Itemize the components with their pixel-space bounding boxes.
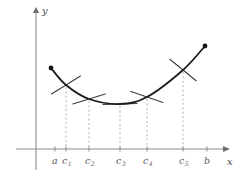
tick-label-sub-c4: 4	[148, 160, 153, 167]
tangent-line-group	[52, 59, 197, 104]
axes-group	[16, 7, 230, 170]
figure-canvas: ac1c2c3c4c5b x y	[0, 0, 241, 176]
tick-label-c5: c5	[179, 155, 189, 167]
endpoint-dot-a	[49, 66, 54, 71]
y-axis-label: y	[41, 5, 48, 16]
tick-label-c2: c2	[85, 155, 95, 167]
tick-label-sub-c1: 1	[68, 160, 72, 167]
tick-label-b: b	[204, 155, 210, 166]
tick-label-c4: c4	[143, 155, 153, 167]
tick-label-base-b: b	[204, 155, 210, 166]
x-axis-arrow-icon	[223, 146, 230, 152]
function-curve	[51, 46, 205, 104]
tick-label-c1: c1	[62, 155, 72, 167]
tick-label-sub-c3: 3	[122, 160, 126, 167]
x-axis-label: x	[227, 156, 233, 167]
tick-label-c3: c3	[116, 155, 126, 167]
tick-label-sub-c5: 5	[185, 160, 189, 167]
convex-function-tangents-plot: ac1c2c3c4c5b x y	[0, 0, 241, 176]
tick-label-sub-c2: 2	[90, 160, 95, 167]
endpoint-dot-group	[49, 44, 208, 71]
tick-label-a: a	[52, 155, 58, 166]
endpoint-dot-b	[203, 44, 208, 49]
y-axis-arrow-icon	[33, 7, 39, 13]
tick-label-group: ac1c2c3c4c5b	[52, 155, 210, 167]
tick-label-base-a: a	[52, 155, 58, 166]
